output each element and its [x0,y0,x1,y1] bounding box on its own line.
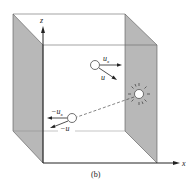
x-axis-arrowhead [173,161,180,165]
left-wall [13,14,43,163]
neg-u-arrowhead [50,125,56,129]
gas-molecule-cube-diagram: z x ux u −ux −u (b) [0,0,194,184]
ux-arrowhead [117,63,122,66]
neg-ux-arrowhead [47,116,52,119]
u-arrowhead [112,76,118,81]
neg-ux-label: −ux [51,107,63,117]
x-axis-label: x [181,159,186,168]
molecule-before [91,61,100,70]
molecule-after [68,114,77,123]
right-wall [125,14,157,163]
ux-label: ux [103,54,110,64]
figure-caption: (b) [91,170,101,179]
neg-u-label: −u [60,124,69,133]
z-axis-label: z [39,16,44,25]
z-axis-arrowhead [41,26,45,33]
u-label: u [101,73,105,82]
